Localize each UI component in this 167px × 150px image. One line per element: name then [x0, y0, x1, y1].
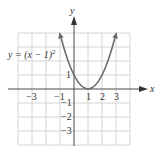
x-tick-label: 2: [100, 91, 105, 102]
graph: y x y = (x − 1)2 −3 −1 1 2 3 1 −1 −2 −3: [0, 0, 167, 150]
equation-label: y = (x − 1)2: [7, 48, 56, 61]
y-tick-label: −3: [61, 125, 72, 136]
y-tick-label: 1: [66, 69, 71, 80]
x-axis-label: x: [149, 83, 155, 94]
y-axis-label: y: [69, 5, 75, 16]
x-tick-label: 1: [86, 91, 91, 102]
x-tick-label: −3: [26, 91, 37, 102]
y-tick-label: −1: [61, 97, 72, 108]
axes: [8, 22, 142, 146]
equation-text: y = (x − 1): [7, 49, 53, 61]
x-axis-arrow-icon: [139, 86, 148, 92]
y-axis-arrow-icon: [71, 16, 77, 25]
y-tick-label: −2: [61, 111, 72, 122]
x-tick-label: 3: [114, 91, 119, 102]
equation-exponent: 2: [52, 48, 56, 56]
